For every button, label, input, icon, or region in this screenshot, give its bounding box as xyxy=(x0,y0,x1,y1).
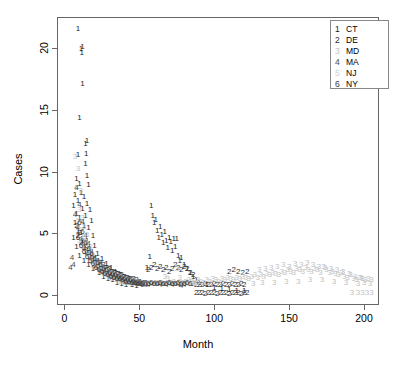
data-point-md: 3 xyxy=(308,276,312,284)
data-point-md: 3 xyxy=(311,261,315,269)
legend-key-1: 1 xyxy=(335,24,346,34)
data-point-md: 3 xyxy=(344,279,348,287)
x-tick-label-50: 50 xyxy=(134,312,146,324)
chart-canvas: Cases Month 05010015020005101520 1111111… xyxy=(0,0,396,366)
data-point-md: 3 xyxy=(275,263,279,271)
legend: 1 CT 2 DE 3 MD 4 MA 5 NJ 6 NY xyxy=(330,20,389,89)
data-point-ma: 4 xyxy=(74,184,78,192)
data-point-md: 3 xyxy=(260,279,264,287)
x-axis-title: Month xyxy=(0,338,396,350)
legend-item-nj: 5 NJ xyxy=(335,68,384,79)
x-tick-label-0: 0 xyxy=(62,312,68,324)
data-point-nj: 5 xyxy=(196,279,200,287)
x-tick-label-150: 150 xyxy=(280,312,298,324)
data-point-md: 3 xyxy=(332,278,336,286)
data-point-md: 3 xyxy=(257,266,261,274)
y-tick-label-wrap: 15 xyxy=(33,104,55,116)
x-tick-label-200: 200 xyxy=(355,312,373,324)
data-point-md: 3 xyxy=(287,263,291,271)
data-point-md: 3 xyxy=(335,266,339,274)
y-tick-label-wrap: 5 xyxy=(33,227,55,239)
y-tick-label-wrap: 20 xyxy=(33,42,55,54)
data-point-md: 3 xyxy=(281,261,285,269)
legend-key-5: 5 xyxy=(335,68,346,78)
data-point-md: 3 xyxy=(296,278,300,286)
data-point-md: 3 xyxy=(251,280,255,288)
data-point-md: 3 xyxy=(323,264,327,272)
data-point-ct: 1 xyxy=(91,232,95,240)
data-point-md: 3 xyxy=(317,263,321,271)
data-point-md: 3 xyxy=(284,278,288,286)
data-point-ny: 6 xyxy=(139,280,143,288)
legend-key-4: 4 xyxy=(335,57,346,67)
legend-key-6: 6 xyxy=(335,79,346,89)
data-point-md: 3 xyxy=(272,279,276,287)
data-point-md: 3 xyxy=(263,265,267,273)
y-axis-title: Cases xyxy=(12,139,24,199)
data-point-md: 3 xyxy=(369,289,373,297)
legend-label-ct: CT xyxy=(346,24,357,34)
data-point-md: 3 xyxy=(79,187,83,195)
y-tick-label-15: 15 xyxy=(38,99,50,121)
data-point-ny: 6 xyxy=(188,280,192,288)
data-point-ct: 1 xyxy=(149,202,153,210)
data-point-de: 2 xyxy=(245,289,249,297)
x-tick-label-100: 100 xyxy=(205,312,223,324)
data-point-ma: 4 xyxy=(70,254,74,262)
legend-label-nj: NJ xyxy=(346,68,356,78)
data-point-md: 3 xyxy=(299,261,303,269)
data-point-ct: 1 xyxy=(80,80,84,88)
data-point-ct: 1 xyxy=(77,114,81,122)
data-point-ct: 1 xyxy=(175,235,179,243)
legend-key-2: 2 xyxy=(335,35,346,45)
data-point-md: 3 xyxy=(350,289,354,297)
legend-label-md: MD xyxy=(346,46,359,56)
legend-item-ct: 1 CT xyxy=(335,24,384,35)
data-point-ct: 1 xyxy=(86,181,90,189)
data-point-md: 3 xyxy=(269,264,273,272)
legend-label-ma: MA xyxy=(346,57,359,67)
y-tick-label-10: 10 xyxy=(38,161,50,183)
x-tick-mark xyxy=(214,305,215,310)
data-point-md: 3 xyxy=(305,259,309,267)
data-point-ct: 1 xyxy=(85,137,89,145)
legend-item-de: 2 DE xyxy=(335,35,384,46)
data-point-ct: 1 xyxy=(83,160,87,168)
y-tick-label-20: 20 xyxy=(38,37,50,59)
data-point-md: 3 xyxy=(293,260,297,268)
data-point-ny: 6 xyxy=(80,228,84,236)
legend-item-ny: 6 NY xyxy=(335,79,384,90)
data-point-md: 3 xyxy=(329,265,333,273)
data-point-ct: 1 xyxy=(84,150,88,158)
y-tick-label-5: 5 xyxy=(38,222,50,244)
data-point-ct: 1 xyxy=(88,206,92,214)
legend-item-md: 3 MD xyxy=(335,46,384,57)
data-point-md: 3 xyxy=(76,165,80,173)
y-tick-label-wrap: 10 xyxy=(33,166,55,178)
x-tick-mark xyxy=(364,305,365,310)
data-point-ma: 4 xyxy=(68,264,72,272)
data-point-md: 3 xyxy=(73,153,77,161)
data-point-md: 3 xyxy=(341,268,345,276)
data-point-md: 3 xyxy=(320,276,324,284)
data-point-ct: 1 xyxy=(79,49,83,57)
legend-key-3: 3 xyxy=(335,46,346,56)
legend-label-de: DE xyxy=(346,35,358,45)
data-point-ct: 1 xyxy=(76,25,80,33)
legend-item-ma: 4 MA xyxy=(335,57,384,68)
x-tick-mark xyxy=(289,305,290,310)
data-point-ma: 4 xyxy=(77,201,81,209)
data-point-md: 3 xyxy=(362,279,366,287)
x-tick-mark xyxy=(64,305,65,310)
y-tick-label-0: 0 xyxy=(38,284,50,306)
x-tick-mark xyxy=(139,305,140,310)
y-tick-label-wrap: 0 xyxy=(33,289,55,301)
legend-label-ny: NY xyxy=(346,79,358,89)
